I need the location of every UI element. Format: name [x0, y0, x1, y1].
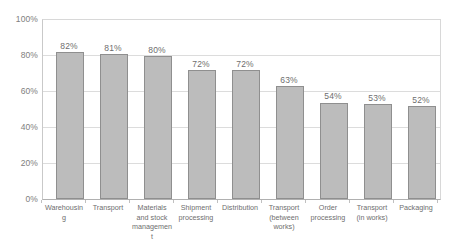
x-axis-label-materials-and-stock-management: Materials and stock management [132, 203, 172, 241]
y-axis-tick-mark [34, 91, 38, 92]
bar-transport-in-works[interactable] [364, 104, 392, 199]
y-axis-tick-mark [34, 55, 38, 56]
y-axis-tick-mark [34, 19, 38, 20]
x-axis-label-shipment-processing: Shipment processing [176, 203, 216, 222]
bar-chart: 100% 80% 60% 40% 20% 0% 82% [0, 0, 457, 245]
bar-distribution[interactable] [232, 70, 260, 199]
x-axis-label-warehousing: Warehousing [44, 203, 84, 222]
x-axis-label-transport: Transport [88, 203, 128, 213]
bar-shipment-processing[interactable] [188, 70, 216, 199]
y-axis-tick-label: 40% [0, 123, 38, 132]
x-axis-label-packaging: Packaging [396, 203, 436, 213]
y-axis-tick-label: 60% [0, 87, 38, 96]
x-axis-tick-mark [261, 200, 262, 203]
y-axis-tick-label: 80% [0, 51, 38, 60]
x-axis-tick-mark [217, 200, 218, 203]
y-axis: 100% 80% 60% 40% 20% 0% [0, 0, 38, 245]
y-axis-tick-label: 20% [0, 159, 38, 168]
x-axis-tick-mark [305, 200, 306, 203]
y-axis-tick-mark [34, 127, 38, 128]
x-axis-tick-mark [85, 200, 86, 203]
x-axis-tick-mark [41, 200, 42, 203]
x-axis-label-transport-in-works: Transport (in works) [352, 203, 392, 222]
bar-transport-between-works[interactable] [276, 86, 304, 199]
bar-warehousing[interactable] [56, 52, 84, 199]
x-axis-tick-mark [129, 200, 130, 203]
bar-transport[interactable] [100, 54, 128, 199]
x-axis-tick-mark [393, 200, 394, 203]
x-axis-label-transport-between-works: Transport (between works) [264, 203, 304, 232]
bar-packaging[interactable] [408, 106, 436, 199]
y-axis-tick-mark [34, 199, 38, 200]
bar-order-processing[interactable] [320, 103, 348, 200]
x-axis-tick-mark [437, 200, 438, 203]
x-axis-tick-mark [349, 200, 350, 203]
y-axis-tick-label: 0% [0, 195, 38, 204]
x-axis: Warehousing Transport Materials and stoc… [42, 203, 441, 245]
bar-materials-and-stock-management[interactable] [144, 56, 172, 199]
x-axis-tick-mark [173, 200, 174, 203]
x-axis-label-order-processing: Order processing [308, 203, 348, 222]
x-axis-label-distribution: Distribution [220, 203, 260, 213]
y-axis-tick-mark [34, 163, 38, 164]
bars-layer [43, 20, 440, 199]
y-axis-tick-label: 100% [0, 15, 38, 24]
plot-area [42, 19, 441, 200]
